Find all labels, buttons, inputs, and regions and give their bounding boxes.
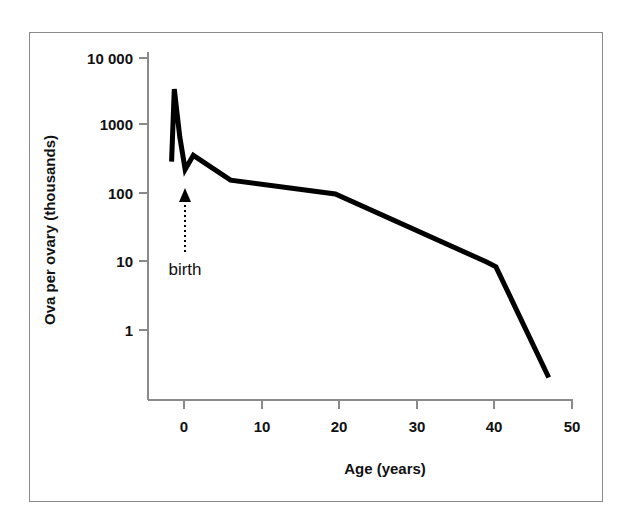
- data-line-ova-per-ovary: [172, 89, 549, 378]
- y-tick-label-10: 10: [116, 253, 133, 270]
- x-tick-label-20: 20: [331, 418, 348, 435]
- figure-root: 10 000 1000 100 10 1 0 10 20 30 40 50: [0, 0, 624, 520]
- x-axis-ticks: [184, 400, 494, 409]
- y-tick-label-10000: 10 000: [87, 50, 133, 67]
- x-axis-tick-labels: 0 10 20 30 40 50: [180, 418, 581, 435]
- x-tick-label-30: 30: [409, 418, 426, 435]
- birth-arrow-head-icon: [179, 188, 191, 202]
- x-axis-title: Age (years): [344, 460, 426, 477]
- x-tick-label-50: 50: [564, 418, 581, 435]
- y-tick-label-1000: 1000: [100, 116, 133, 133]
- x-tick-label-40: 40: [486, 418, 503, 435]
- birth-annotation: birth: [168, 188, 201, 279]
- birth-annotation-label: birth: [168, 260, 201, 279]
- y-axis-tick-labels: 10 000 1000 100 10 1: [87, 50, 133, 339]
- x-tick-label-0: 0: [180, 418, 188, 435]
- y-axis-title: Ova per ovary (thousands): [41, 135, 58, 325]
- x-tick-label-10: 10: [254, 418, 271, 435]
- chart-canvas: 10 000 1000 100 10 1 0 10 20 30 40 50: [0, 0, 624, 520]
- y-tick-label-1: 1: [125, 322, 133, 339]
- y-axis-ticks: [139, 58, 148, 330]
- y-tick-label-100: 100: [108, 185, 133, 202]
